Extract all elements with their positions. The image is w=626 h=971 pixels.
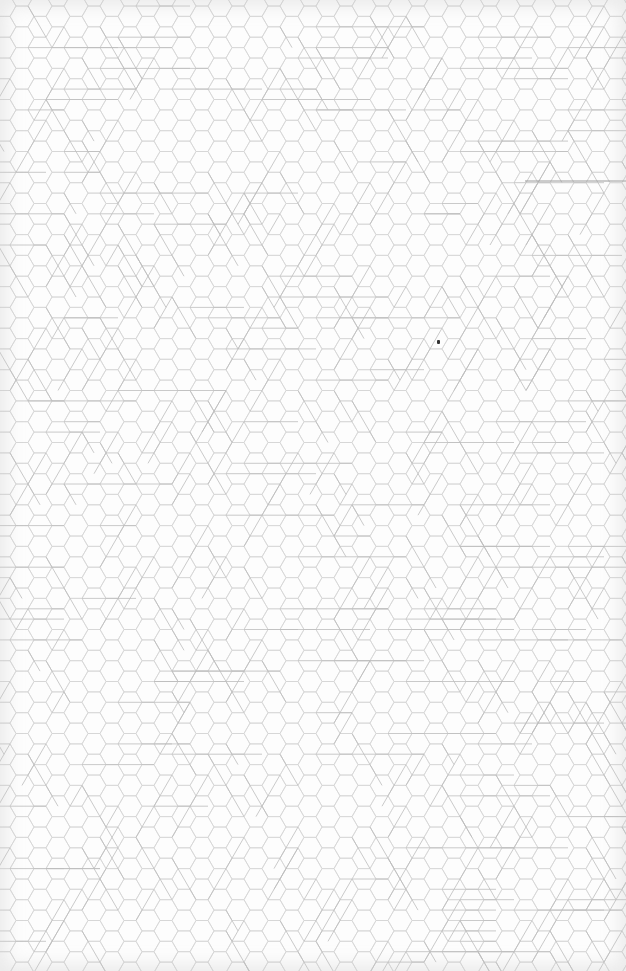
hex-grid-canvas [0,0,626,971]
cursor-marker-icon [437,340,440,344]
hex-grid-pattern [0,0,626,971]
